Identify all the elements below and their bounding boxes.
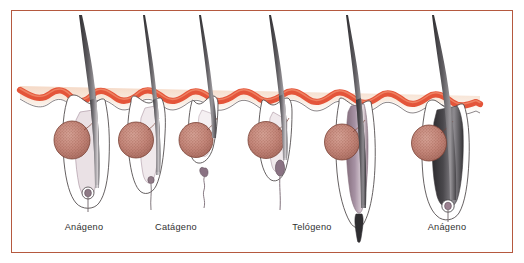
phase-label-telogen: Telógeno xyxy=(292,222,331,232)
figure-border-frame xyxy=(11,10,513,253)
hair-cycle-figure: Anágeno Catágeno Telógeno Anágeno xyxy=(0,0,524,263)
phase-label-anagen-right: Anágeno xyxy=(428,222,467,232)
phase-label-catagen: Catágeno xyxy=(155,222,197,232)
phase-label-anagen-left: Anágeno xyxy=(65,222,104,232)
